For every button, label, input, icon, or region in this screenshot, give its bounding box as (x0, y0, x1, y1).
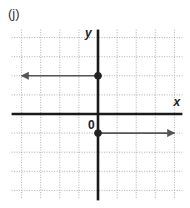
y-axis-label: y (84, 26, 93, 40)
graph: xy0 (0, 0, 190, 208)
x-axis-label: x (172, 95, 181, 109)
upper-ray-endpoint-dot (95, 72, 102, 79)
origin-label: 0 (88, 118, 95, 132)
lower-ray-endpoint-dot (95, 130, 102, 137)
